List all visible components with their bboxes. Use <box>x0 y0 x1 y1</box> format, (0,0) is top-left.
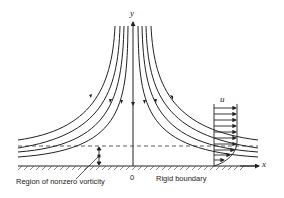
flow-diagram <box>0 0 284 198</box>
velocity-label: u <box>220 94 225 104</box>
region-label: Region of nonzero vorticity <box>16 177 105 186</box>
velocity-profile <box>214 104 237 166</box>
origin-label: 0 <box>130 173 134 182</box>
x-axis-label: x <box>262 159 266 169</box>
boundary-label: Rigid boundary <box>156 174 206 183</box>
rigid-boundary <box>18 166 256 170</box>
vorticity-region-marker <box>76 147 101 179</box>
streamlines-left <box>18 26 128 157</box>
streamlines-right <box>138 26 258 157</box>
y-axis-label: y <box>130 8 134 18</box>
